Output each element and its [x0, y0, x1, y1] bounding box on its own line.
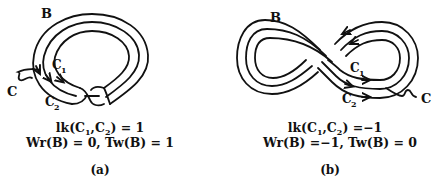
label-b-core: C — [421, 91, 431, 106]
panel-b-writhe-twist: Wr(B) =−1, Tw(B) = 0 — [245, 135, 435, 150]
label-b-band: B — [270, 10, 281, 25]
linking-suffix: ) =−1 — [342, 120, 382, 135]
panel-a-ribbon — [18, 14, 148, 105]
label-a-c1-sub: 1 — [61, 65, 67, 75]
label-b-c2-sub: 2 — [351, 99, 357, 109]
linking-suffix: ) = 1 — [110, 120, 144, 135]
ribbon-b-outer-edge-left — [237, 20, 320, 94]
label-a-band: B — [41, 6, 52, 21]
linking-prefix: lk(C — [288, 120, 317, 135]
ribbon-a-twist-strand-2 — [91, 87, 104, 90]
linking-mid: ,C — [91, 120, 105, 135]
linking-prefix: lk(C — [56, 120, 85, 135]
ribbon-a-inner-edge — [54, 31, 129, 88]
ribbon-a-twist-strand-4 — [104, 88, 110, 104]
label-a-core: C — [7, 84, 17, 99]
label-b-c1-sub: 1 — [359, 68, 365, 78]
panel-b-ribbon — [237, 20, 418, 98]
diagram-canvas: B C C 1 C 2 B C C 1 C 2 — [0, 0, 440, 192]
panel-b-caption: (b) — [300, 163, 360, 177]
ribbon-b-core-left — [246, 29, 326, 86]
label-a-c2-sub: 2 — [54, 102, 60, 112]
panel-a-writhe-twist: Wr(B) = 0, Tw(B) = 1 — [10, 135, 190, 150]
panel-a-caption: (a) — [70, 163, 130, 177]
linking-mid: ,C — [323, 120, 337, 135]
ribbon-b-inner-edge-left — [255, 38, 332, 78]
